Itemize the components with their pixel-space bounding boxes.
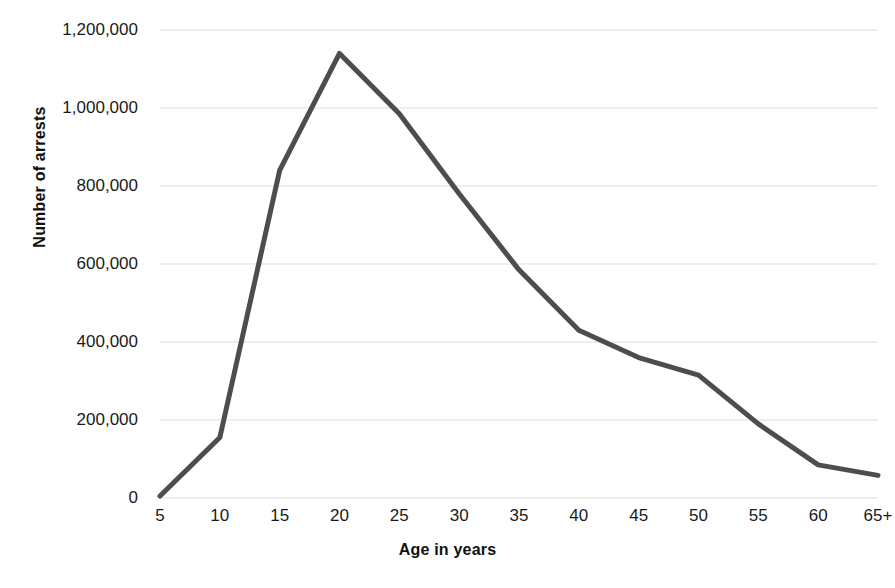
x-tick-label: 5 [155, 506, 164, 525]
y-tick-label: 400,000 [0, 333, 138, 350]
x-tick-label: 30 [450, 506, 469, 525]
x-tick-label: 35 [510, 506, 529, 525]
y-tick-label: 200,000 [0, 411, 138, 428]
x-tick-label: 60 [809, 506, 828, 525]
x-axis-title: Age in years [0, 541, 895, 559]
y-tick-label: 800,000 [0, 177, 138, 194]
x-tick-label: 10 [210, 506, 229, 525]
y-axis-tick-labels: 0200,000400,000600,000800,0001,000,0001,… [0, 0, 138, 588]
y-tick-label: 600,000 [0, 255, 138, 272]
data-line-group [160, 53, 878, 496]
x-tick-label: 55 [749, 506, 768, 525]
x-tick-label: 20 [330, 506, 349, 525]
plot-svg [160, 30, 878, 498]
x-tick-label: 65+ [864, 506, 893, 525]
gridlines [160, 30, 878, 498]
arrests-data-line [160, 53, 878, 496]
y-tick-label: 1,000,000 [0, 99, 138, 116]
y-tick-label: 0 [0, 489, 138, 506]
arrests-by-age-line-chart: Number of arrests 0200,000400,000600,000… [0, 0, 895, 588]
x-tick-label: 15 [270, 506, 289, 525]
x-tick-label: 50 [689, 506, 708, 525]
x-tick-label: 25 [390, 506, 409, 525]
x-axis-tick-labels: 5101520253035404550556065+ [160, 506, 878, 532]
y-tick-label: 1,200,000 [0, 21, 138, 38]
x-tick-label: 45 [629, 506, 648, 525]
x-tick-label: 40 [569, 506, 588, 525]
plot-area [160, 30, 878, 498]
